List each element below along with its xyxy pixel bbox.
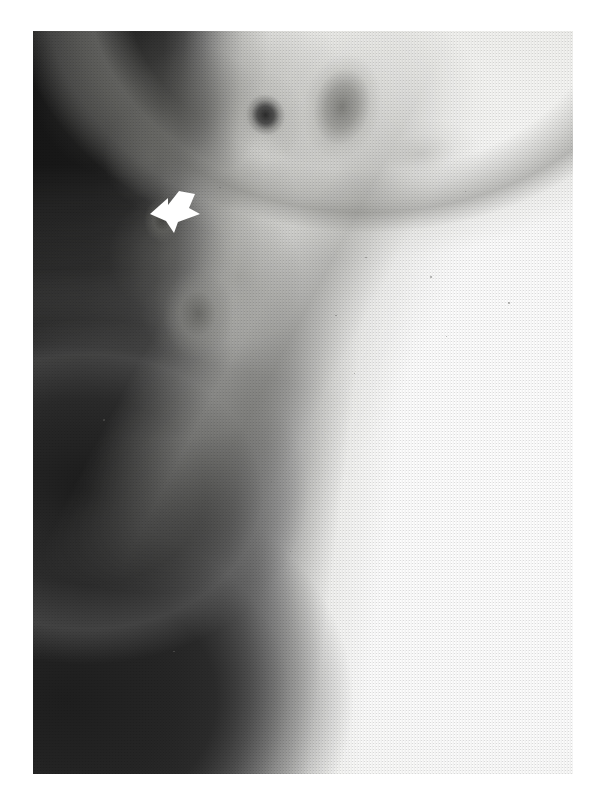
arrow-pointer-icon: [148, 188, 204, 236]
radiograph-plate[interactable]: [33, 31, 573, 774]
figure-page: [0, 0, 600, 810]
print-grain: [33, 31, 573, 774]
